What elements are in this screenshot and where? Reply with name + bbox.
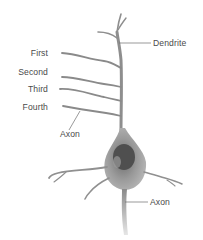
label-axon-lower: Axon xyxy=(150,197,170,207)
axon xyxy=(122,189,128,235)
label-fourth: Fourth xyxy=(0,102,48,112)
branches xyxy=(60,53,121,116)
label-third: Third xyxy=(0,84,48,94)
cell-body xyxy=(104,128,146,190)
label-second: Second xyxy=(0,67,48,77)
neuron-illustration xyxy=(0,0,203,240)
label-axon-upper: Axon xyxy=(60,129,80,139)
neuron-diagram: First Second Third Fourth Axon Dendrite … xyxy=(0,0,203,240)
label-dendrite: Dendrite xyxy=(153,38,186,48)
label-first: First xyxy=(0,48,48,58)
